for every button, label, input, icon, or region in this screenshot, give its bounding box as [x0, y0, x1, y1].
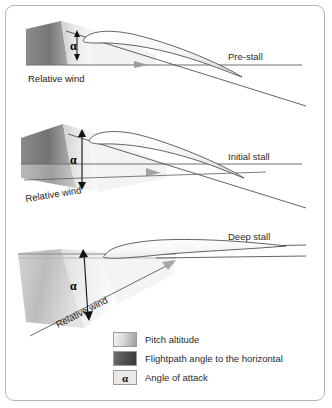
legend-label-flightpath-angle: Flightpath angle to the horizontal	[145, 354, 283, 364]
state-label: Pre-stall	[228, 51, 263, 62]
alpha-symbol: α	[70, 39, 77, 53]
flightpath-angle-swatch	[113, 351, 137, 366]
deep-stall-graphic: α Relative wind Deep stall	[6, 218, 325, 340]
alpha-symbol: α	[70, 279, 77, 293]
panel-pre-stall: α Relative wind Pre-stall	[6, 6, 325, 114]
angle-of-attack-swatch: α	[113, 370, 137, 385]
airfoil	[104, 239, 286, 258]
flightpath-wedge-upper	[21, 124, 70, 164]
flightpath-wedge-lower	[21, 164, 76, 188]
legend-item-angle-of-attack: α Angle of attack	[113, 368, 325, 387]
pitch-attitude-swatch	[113, 332, 137, 347]
alpha-symbol: α	[70, 153, 77, 167]
flightpath-line-2	[156, 256, 306, 258]
relative-wind-label: Relative wind	[28, 73, 85, 84]
legend-item-flightpath-angle: Flightpath angle to the horizontal	[113, 349, 325, 368]
figure-frame: α Relative wind Pre-stall	[5, 5, 325, 401]
flightpath-wedge	[26, 21, 68, 65]
initial-stall-graphic: α Relative wind Initial stall	[6, 106, 325, 224]
panel-initial-stall: α Relative wind Initial stall	[6, 106, 325, 224]
legend-label-pitch-attitude: Pitch altitude	[145, 335, 199, 345]
state-label: Deep stall	[228, 231, 270, 242]
pre-stall-graphic: α Relative wind Pre-stall	[6, 6, 325, 114]
state-label: Initial stall	[228, 151, 270, 162]
panel-deep-stall: α Relative wind Deep stall	[6, 218, 325, 340]
relative-wind-label: Relative wind	[25, 184, 83, 204]
legend-label-angle-of-attack: Angle of attack	[145, 373, 208, 383]
legend: Pitch altitude Flightpath angle to the h…	[113, 330, 325, 392]
legend-item-pitch-attitude: Pitch altitude	[113, 330, 325, 349]
